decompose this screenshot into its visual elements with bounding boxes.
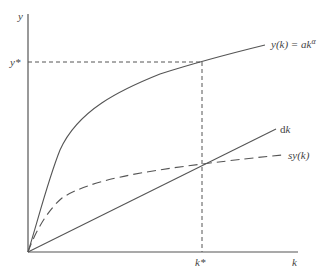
depreciation-line xyxy=(28,129,276,252)
production-curve xyxy=(28,45,265,252)
production-curve-label-text: y(k) = ak xyxy=(270,38,313,51)
production-curve-exponent: α xyxy=(311,37,316,46)
production-curve-label: y(k) = akα xyxy=(270,37,316,51)
y-axis-label: y xyxy=(17,10,23,22)
x-axis-label: k xyxy=(292,256,298,268)
depreciation-var: k xyxy=(286,123,292,135)
k-star-label: k* xyxy=(195,256,206,268)
savings-curve-label: sy(k) xyxy=(288,149,310,162)
solow-diagram: y k y* k* y(k) = akα dk sy(k) xyxy=(0,0,333,279)
y-star-label: y* xyxy=(9,56,21,68)
savings-curve xyxy=(28,155,282,252)
depreciation-line-label: dk xyxy=(280,123,292,135)
